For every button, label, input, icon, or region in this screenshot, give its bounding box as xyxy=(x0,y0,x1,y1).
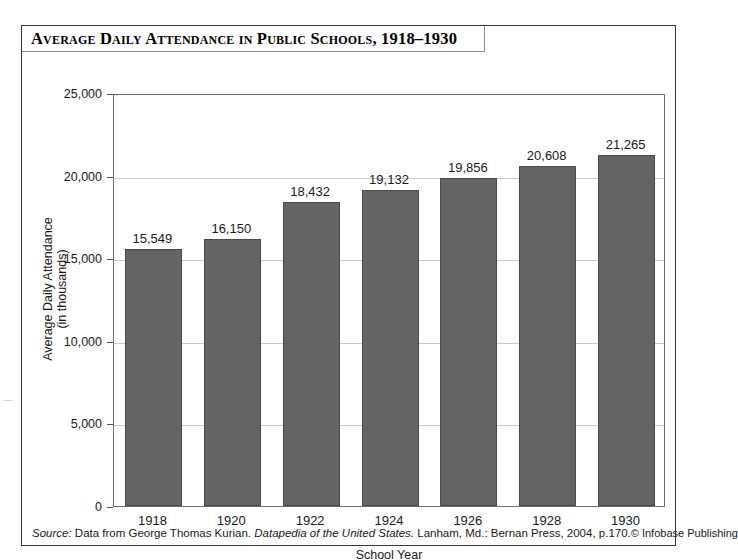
source-label: Source: xyxy=(32,527,72,539)
y-axis-tick-label: 15,000 xyxy=(22,252,102,266)
y-axis-tick-label: 25,000 xyxy=(22,87,102,101)
y-axis-title: Average Daily Attendance (in thousands) xyxy=(41,149,69,429)
bar-value-label: 18,432 xyxy=(290,184,330,199)
bar xyxy=(204,239,261,506)
bar-value-label: 19,132 xyxy=(369,172,409,187)
x-axis-title: School Year xyxy=(113,548,665,560)
copyright-notice: © Infobase Publishing xyxy=(631,527,738,539)
bar-value-label: 20,608 xyxy=(527,148,567,163)
bar xyxy=(362,190,419,506)
page-title: Average Daily Attendance in Public Schoo… xyxy=(22,29,457,49)
source-note: Source: Data from George Thomas Kurian. … xyxy=(32,527,631,539)
scan-artifact xyxy=(3,400,13,401)
y-axis-title-line2: (in thousands) xyxy=(55,149,69,429)
source-book-title: Datapedia of the United States. xyxy=(254,527,414,539)
bar xyxy=(598,155,655,506)
y-axis-tick-label: 5,000 xyxy=(22,417,102,431)
source-publisher: Lanham, Md.: Bernan Press, 2004, p.170. xyxy=(414,527,631,539)
y-axis-tick-label: 10,000 xyxy=(22,335,102,349)
chart-footer: Source: Data from George Thomas Kurian. … xyxy=(22,520,675,545)
bar-value-label: 16,150 xyxy=(211,221,251,236)
bar xyxy=(440,178,497,506)
source-author: Data from George Thomas Kurian. xyxy=(72,527,255,539)
bar-value-label: 21,265 xyxy=(606,137,646,152)
plot-area xyxy=(113,94,665,507)
bar xyxy=(125,249,182,506)
y-axis-tick-mark xyxy=(107,507,113,508)
y-axis-tick-label: 20,000 xyxy=(22,170,102,184)
bar-value-label: 19,856 xyxy=(448,160,488,175)
bar xyxy=(283,202,340,506)
chart-figure: Average Daily Attendance in Public Schoo… xyxy=(21,25,676,546)
y-axis-tick-label: 0 xyxy=(22,500,102,514)
bar-value-label: 15,549 xyxy=(133,231,173,246)
bar xyxy=(519,166,576,506)
chart-title-banner: Average Daily Attendance in Public Schoo… xyxy=(22,26,485,52)
chart-canvas: Average Daily Attendance (in thousands) … xyxy=(22,53,675,520)
